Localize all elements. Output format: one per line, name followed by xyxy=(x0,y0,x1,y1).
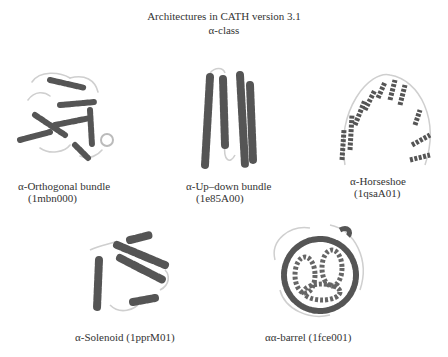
structure-orthogonal-bundle xyxy=(10,60,120,170)
structure-alpha-alpha-barrel xyxy=(270,220,370,320)
caption-alpha-alpha-barrel: αα-barrel (1fce001) xyxy=(265,331,351,343)
caption-solenoid: α-Solenoid (1pprM01) xyxy=(75,331,175,343)
pdb-domain-id: (1e85A00) xyxy=(186,192,272,204)
architecture-name: α-Up–down bundle xyxy=(186,180,272,192)
architecture-name: α-Solenoid xyxy=(75,331,124,343)
structure-horseshoe xyxy=(330,70,440,170)
class-subtitle: α-class xyxy=(0,24,448,36)
solenoid-ribbon-image xyxy=(85,230,175,315)
structure-solenoid xyxy=(85,230,175,315)
architecture-name: αα-barrel xyxy=(265,331,306,343)
orthogonal-bundle-ribbon-image xyxy=(10,60,120,170)
pdb-domain-id: (1qsaA01) xyxy=(350,187,406,199)
pdb-domain-id: (1mbn000) xyxy=(18,192,110,204)
alpha-alpha-barrel-ribbon-image xyxy=(270,220,370,320)
caption-orthogonal-bundle: α-Orthogonal bundle (1mbn000) xyxy=(18,180,110,204)
caption-up-down-bundle: α-Up–down bundle (1e85A00) xyxy=(186,180,272,204)
architecture-name: α-Horseshoe xyxy=(350,175,406,187)
pdb-domain-id: (1pprM01) xyxy=(126,331,174,343)
horseshoe-ribbon-image xyxy=(330,70,440,170)
pdb-domain-id: (1fce001) xyxy=(309,331,352,343)
caption-horseshoe: α-Horseshoe (1qsaA01) xyxy=(350,175,406,199)
up-down-bundle-ribbon-image xyxy=(195,65,265,175)
structure-up-down-bundle xyxy=(195,65,265,175)
figure-title: Architectures in CATH version 3.1 xyxy=(0,10,448,22)
architecture-name: α-Orthogonal bundle xyxy=(18,180,110,192)
